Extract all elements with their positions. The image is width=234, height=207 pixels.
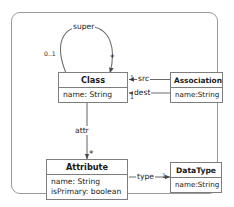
edge-multiplicity-super-source: 0..1 — [44, 50, 56, 57]
edge-label-super: super — [72, 22, 95, 31]
class-name-association: Association — [171, 73, 222, 88]
class-attribute: isPrimary: boolean — [51, 187, 124, 197]
class-attributes-association: name:String — [171, 88, 222, 102]
edge-label-type: type — [136, 172, 155, 181]
edge-label-src: src — [137, 74, 150, 83]
class-attribute: name:String — [175, 180, 218, 190]
class-name-datatype: DataType — [171, 163, 221, 178]
edge-multiplicity-dest: 1 — [130, 93, 134, 100]
uml-class-box-datatype[interactable]: DataType name:String — [170, 162, 222, 193]
diagram-canvas: Class name: String Association name:Stri… — [0, 0, 234, 207]
edge-multiplicity-src: 1 — [130, 74, 134, 81]
edge-multiplicity-type: 1 — [162, 172, 166, 179]
class-attributes-class: name: String — [59, 88, 127, 102]
edge-multiplicity-attr: * — [89, 151, 94, 157]
class-attributes-datatype: name:String — [171, 178, 221, 192]
uml-class-box-class[interactable]: Class name: String — [58, 72, 128, 103]
edge-multiplicity-super-target: * — [110, 55, 115, 61]
class-name-attribute: Attribute — [47, 160, 127, 175]
edge-label-attr: attr — [74, 126, 90, 135]
class-attributes-attribute: name: String isPrimary: boolean — [47, 175, 127, 199]
class-attribute: name: String — [63, 90, 124, 100]
class-attribute: name:String — [175, 90, 219, 100]
class-name-class: Class — [59, 73, 127, 88]
class-attribute: name: String — [51, 177, 124, 187]
uml-class-box-association[interactable]: Association name:String — [170, 72, 223, 103]
edge-super-path — [61, 26, 113, 73]
edge-label-dest: dest — [133, 88, 151, 97]
uml-class-box-attribute[interactable]: Attribute name: String isPrimary: boolea… — [46, 159, 128, 200]
